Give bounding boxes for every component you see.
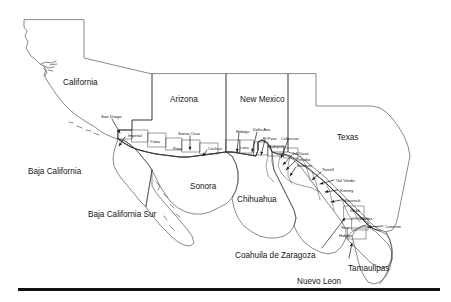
map-canvas	[0, 0, 451, 302]
state-label-coahuila-de-zaragoza: Coahuila de Zaragoza	[235, 252, 316, 260]
coast-detail-sf-bay	[41, 61, 57, 76]
county-label-el-paso-9: El Paso	[263, 137, 276, 141]
state-outline-tamaulipas	[352, 225, 392, 284]
county-label-san-diego-0: San Diego	[101, 115, 122, 119]
county-label-zapata-20: Zapata	[360, 217, 372, 221]
county-label-pima-3: Pima	[173, 147, 182, 151]
county-label-do-a-ana-8: Doña Ana	[253, 128, 270, 132]
state-outline-arizona	[118, 74, 226, 157]
state-label-new-mexico: New Mexico	[240, 96, 285, 104]
county-label-val-verde-16: Val Verde	[336, 179, 355, 183]
state-label-baja-california: Baja California	[28, 168, 81, 176]
leader-kinney-arrowhead	[325, 190, 328, 193]
state-label-baja-california-sur: Baja California Sur	[88, 211, 156, 219]
county-label-starr-21: Starr	[341, 226, 349, 230]
county-label-cochise-5: Cochise	[208, 147, 222, 151]
county-label-cameron-23: Cameron	[385, 225, 401, 229]
state-label-sonora: Sonora	[190, 183, 216, 191]
state-outline-nuevo-leon	[346, 226, 392, 268]
county-label-webb-19: Webb	[350, 209, 360, 213]
county-label-brewster-14: Brewster	[297, 164, 312, 168]
county-label-terrell-15: Terrell	[322, 168, 334, 172]
leader-imperial-arrowhead	[119, 143, 122, 146]
county-label-culberson-11: Culberson	[281, 137, 299, 141]
border-region-map-figure: CaliforniaArizonaNew MexicoTexasBaja Cal…	[0, 0, 451, 302]
state-label-texas: Texas	[337, 134, 358, 142]
coast-detail-channel-islands	[69, 122, 99, 135]
county-label-hudspeth-10: Hudspeth	[268, 145, 285, 149]
county-label-hidalgo-22: Hidalgo	[339, 234, 352, 238]
leader-brewster-arrowhead	[290, 173, 293, 176]
county-label-luna-7: Luna	[240, 146, 249, 150]
county-label-santa-cruz-4: Santa Cruz	[178, 132, 200, 136]
state-label-chihuahua: Chihuahua	[237, 196, 277, 204]
gulf-of-california-islands	[156, 182, 180, 230]
state-label-arizona: Arizona	[170, 96, 198, 104]
county-label-yuma-2: Yuma	[150, 140, 160, 144]
state-outline-baja-california-sur	[146, 170, 194, 246]
county-label-presidio-13: Presidio	[296, 158, 310, 162]
bottom-divider	[18, 288, 440, 291]
state-label-california: California	[63, 79, 98, 87]
county-label-hidalgo-6: Hidalgo	[236, 130, 249, 134]
county-label-maverick-18: Maverick	[343, 199, 361, 203]
state-label-tamaulipas: Tamaulipas	[348, 265, 389, 273]
county-label-jeff-davis-12: Jeff Davis	[292, 152, 309, 156]
county-label-imperial-1: Imperial	[128, 134, 142, 138]
state-label-nuevo-leon: Nuevo Leon	[297, 278, 341, 286]
leader-santa-cruz-arrowhead	[189, 147, 192, 150]
state-outline-baja-california	[113, 139, 152, 207]
county-label-kinney-17: Kinney	[340, 189, 353, 193]
leader-cochise-arrowhead	[203, 153, 206, 156]
